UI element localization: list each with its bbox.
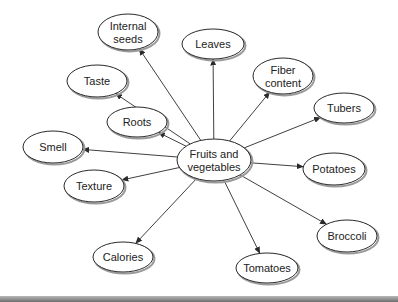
node-label: Leaves xyxy=(195,38,231,50)
node-label: Calories xyxy=(103,251,144,263)
node-label: Texture xyxy=(76,180,112,192)
node-label: Roots xyxy=(123,116,152,128)
arrow-center-to-leaves xyxy=(213,59,214,139)
arrow-center-to-fiber-content xyxy=(230,92,270,141)
node-broccoli: Broccoli xyxy=(317,220,379,254)
node-label: Fruits and xyxy=(190,148,239,160)
arrow-center-to-calories xyxy=(136,179,197,244)
node-label: Fiber xyxy=(270,64,295,76)
node-center: Fruits andvegetables xyxy=(177,139,253,183)
node-label: content xyxy=(265,77,301,89)
concept-map-diagram: InternalseedsLeavesFibercontentTubersTas… xyxy=(0,0,398,302)
node-tubers: Tubers xyxy=(314,93,376,125)
arrow-center-to-texture xyxy=(122,168,180,181)
node-smell: Smell xyxy=(23,131,85,165)
node-potatoes: Potatoes xyxy=(303,153,367,187)
node-label: Broccoli xyxy=(327,230,366,242)
node-fiber-content: Fibercontent xyxy=(253,58,315,96)
node-taste: Taste xyxy=(67,65,129,99)
node-label: Potatoes xyxy=(312,163,356,175)
arrow-center-to-roots xyxy=(158,133,186,147)
node-label: Tomatoes xyxy=(243,262,291,274)
node-internal-seeds: Internalseeds xyxy=(98,14,160,52)
node-label: vegetables xyxy=(187,161,241,173)
bottom-border-bar xyxy=(0,296,398,302)
arrow-center-to-potatoes xyxy=(251,163,304,167)
node-texture: Texture xyxy=(64,170,126,204)
node-leaves: Leaves xyxy=(182,29,246,61)
node-label: Internal xyxy=(110,20,147,32)
arrow-center-to-tubers xyxy=(244,117,320,147)
nodes-layer: InternalseedsLeavesFibercontentTubersTas… xyxy=(23,14,379,285)
arrow-center-to-smell xyxy=(83,149,178,157)
node-roots: Roots xyxy=(107,107,169,139)
node-label: Smell xyxy=(39,141,67,153)
node-tomatoes: Tomatoes xyxy=(236,253,300,285)
node-calories: Calories xyxy=(93,242,155,274)
node-label: Tubers xyxy=(327,102,361,114)
node-label: Taste xyxy=(84,75,110,87)
arrow-center-to-tomatoes xyxy=(224,180,260,253)
node-label: seeds xyxy=(113,33,143,45)
